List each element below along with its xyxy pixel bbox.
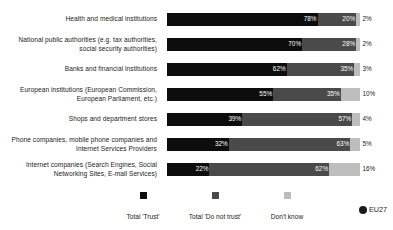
category-label-line: Shops and department stores (69, 115, 157, 122)
bar-segment: 3% (354, 63, 360, 76)
bar-segment: 20% (318, 13, 357, 26)
bar-value-label: 78% (304, 16, 318, 22)
chart-row: National public authorities (e.g. tax au… (0, 32, 393, 57)
legend-swatch-icon (284, 192, 291, 199)
category-label: Shops and department stores (0, 115, 167, 123)
chart-row: Health and medical institutions78%20%2% (0, 7, 393, 32)
bar-value-label: 70% (288, 41, 302, 47)
bar-track: 55%35%10% (167, 88, 360, 101)
bar-value-label: 20% (342, 16, 356, 22)
legend-label: Total 'Trust' (126, 213, 159, 220)
bar-segment: 63% (229, 138, 351, 151)
legend-item: Don't know (244, 192, 330, 223)
category-label-line: social security authorities) (79, 45, 157, 52)
eu27-badge: EU27 (359, 206, 387, 214)
bar-segment: 22% (167, 163, 209, 176)
bar-segment: 5% (350, 138, 360, 151)
bar-segment: 16% (329, 163, 360, 176)
category-label: Internet companies (Search Engines, Soci… (0, 161, 167, 177)
bar-value-label: 62% (273, 66, 287, 72)
bar-value-label: 39% (228, 116, 242, 122)
category-label: National public authorities (e.g. tax au… (0, 36, 167, 52)
bar-segment: 35% (273, 88, 341, 101)
bar-segment: 35% (287, 63, 355, 76)
category-label-line: Networking Sites, E-mail Services) (54, 170, 157, 177)
category-label-line: Banks and financial institutions (65, 65, 157, 72)
chart-row: Banks and financial institutions62%35%3% (0, 57, 393, 82)
legend-swatch-icon (212, 192, 219, 199)
category-label-line: European institutions (European Commissi… (20, 86, 157, 93)
bar-segment: 32% (167, 138, 229, 151)
bar-track: 70%28%2% (167, 38, 360, 51)
category-label-line: National public authorities (e.g. tax au… (18, 36, 157, 43)
eu27-dot-icon (359, 206, 367, 214)
eu27-label: EU27 (369, 206, 387, 213)
bar-value-label: 57% (338, 116, 352, 122)
bar-segment: 28% (302, 38, 356, 51)
category-label-line: Phone companies, mobile phone companies … (12, 136, 157, 143)
bar-segment: 39% (167, 113, 242, 126)
bar-value-label: 10% (362, 91, 375, 97)
bar-value-label: 28% (342, 41, 356, 47)
legend-label: Don't know (271, 213, 303, 220)
category-label: Phone companies, mobile phone companies … (0, 136, 167, 152)
bar-value-label: 22% (196, 166, 210, 172)
bar-value-label: 2% (362, 16, 371, 22)
bar-value-label: 55% (259, 91, 273, 97)
bar-value-label: 2% (362, 41, 371, 47)
bar-track: 78%20%2% (167, 13, 360, 26)
bar-segment: 62% (209, 163, 329, 176)
bar-value-label: 16% (362, 166, 375, 172)
category-label-line: Internet companies (Search Engines, Soci… (26, 161, 157, 168)
bar-value-label: 5% (362, 141, 371, 147)
category-label-line: Internet Services Providers (76, 145, 157, 152)
chart-row: Phone companies, mobile phone companies … (0, 132, 393, 157)
chart-rows: Health and medical institutions78%20%2%N… (0, 7, 393, 182)
bar-track: 32%63%5% (167, 138, 360, 151)
category-label: Banks and financial institutions (0, 65, 167, 73)
bar-value-label: 35% (327, 91, 341, 97)
category-label-line: European Parliament, etc.) (77, 95, 157, 102)
bar-value-label: 32% (215, 141, 229, 147)
bar-segment: 2% (356, 13, 360, 26)
legend-swatch-icon (140, 192, 147, 199)
bar-value-label: 4% (362, 116, 371, 122)
chart-legend: Total 'Trust'Total 'Do not trust'Don't k… (0, 192, 393, 222)
bar-track: 62%35%3% (167, 63, 360, 76)
bar-segment: 78% (167, 13, 318, 26)
bar-track: 39%57%4% (167, 113, 360, 126)
chart-row: Internet companies (Search Engines, Soci… (0, 157, 393, 182)
category-label: Health and medical institutions (0, 15, 167, 23)
bar-segment: 62% (167, 63, 287, 76)
bar-value-label: 62% (315, 166, 329, 172)
bar-segment: 57% (242, 113, 352, 126)
bar-value-label: 3% (362, 66, 371, 72)
bar-segment: 70% (167, 38, 302, 51)
category-label: European institutions (European Commissi… (0, 86, 167, 102)
bar-segment: 55% (167, 88, 273, 101)
bar-segment: 2% (356, 38, 360, 51)
bar-value-label: 35% (340, 66, 354, 72)
chart-row: European institutions (European Commissi… (0, 82, 393, 107)
bar-value-label: 63% (337, 141, 351, 147)
stacked-bar-chart: Health and medical institutions78%20%2%N… (0, 0, 393, 230)
chart-row: Shops and department stores39%57%4% (0, 107, 393, 132)
bar-segment: 4% (352, 113, 360, 126)
bar-segment: 10% (341, 88, 360, 101)
category-label-line: Health and medical institutions (66, 15, 157, 22)
bar-track: 22%62%16% (167, 163, 360, 176)
legend-label: Total 'Do not trust' (189, 213, 241, 220)
